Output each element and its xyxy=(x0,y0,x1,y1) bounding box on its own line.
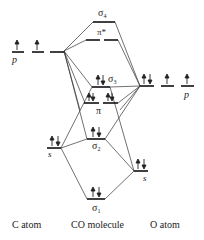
o-p-electron-up-3 xyxy=(185,74,189,84)
level-labels: σ4 π* σ3 π σ2 σ1 p s p s xyxy=(11,7,189,214)
o-p-electron-up-2 xyxy=(165,74,169,84)
o-s-label: s xyxy=(143,173,147,183)
o-s-electron-up xyxy=(136,159,140,169)
sigma3-electron-down xyxy=(101,75,105,85)
c-s-electron-up xyxy=(50,136,54,146)
c-s-electron-down xyxy=(56,136,60,146)
sigma4-label: σ4 xyxy=(98,7,106,19)
sigma3-electron-up xyxy=(96,75,100,85)
sigma3-label: σ3 xyxy=(108,73,116,85)
pi-star-label: π* xyxy=(97,27,107,37)
c-s-label: s xyxy=(48,149,52,159)
column-labels: C atom CO molecule O atom xyxy=(12,219,180,230)
pi-label: π xyxy=(96,105,101,116)
o-p-label: p xyxy=(183,89,189,100)
o-p-electron-up-1 xyxy=(142,74,146,84)
sigma1-electron-up xyxy=(91,187,95,197)
sigma2-label: σ2 xyxy=(92,140,100,152)
co-molecule-label: CO molecule xyxy=(71,219,125,230)
sigma1-label: σ1 xyxy=(92,202,100,214)
o-s-electron-down xyxy=(142,159,146,169)
c-p-label: p xyxy=(11,54,17,65)
mo-diagram: σ4 π* σ3 π σ2 σ1 p s p s C atom CO molec… xyxy=(0,0,204,240)
electron-arrows xyxy=(15,40,189,197)
pi-electron-down-1 xyxy=(91,93,95,101)
sigma2-electron-up xyxy=(91,127,95,137)
c-p-electron-up-1 xyxy=(15,40,19,50)
sigma2-electron-down xyxy=(97,127,101,137)
pi-electron-up-2 xyxy=(106,93,110,101)
sigma1-electron-down xyxy=(97,187,101,197)
c-p-electron-up-2 xyxy=(35,40,39,50)
pi-electron-up-1 xyxy=(87,93,91,101)
c-atom-label: C atom xyxy=(12,219,41,230)
o-atom-label: O atom xyxy=(150,219,180,230)
energy-levels xyxy=(12,22,194,199)
o-p-electron-down-1 xyxy=(148,74,152,84)
